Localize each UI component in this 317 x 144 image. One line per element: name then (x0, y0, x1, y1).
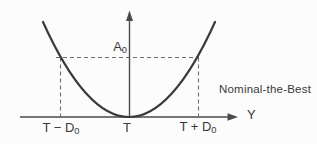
t-plus-d0-label-subscript: 0 (211, 125, 216, 135)
a0-label-subscript: 0 (122, 45, 127, 55)
a0-label-text: A (113, 39, 122, 54)
t-minus-d0-label-text: T − D (42, 120, 74, 135)
t-minus-d0-label: T − D0 (35, 122, 87, 134)
t-plus-d0-label-text: T + D (179, 119, 211, 134)
nominal-the-best-loss-diagram: A0 T − D0 T T + D0 Y Nominal-the-Best (0, 0, 317, 144)
y-axis-label: Y (247, 109, 256, 121)
diagram-caption: Nominal-the-Best (219, 83, 311, 95)
a0-label: A0 (103, 41, 127, 53)
target-t-label: T (119, 122, 135, 134)
t-plus-d0-label: T + D0 (172, 121, 224, 133)
t-minus-d0-label-subscript: 0 (74, 126, 79, 136)
